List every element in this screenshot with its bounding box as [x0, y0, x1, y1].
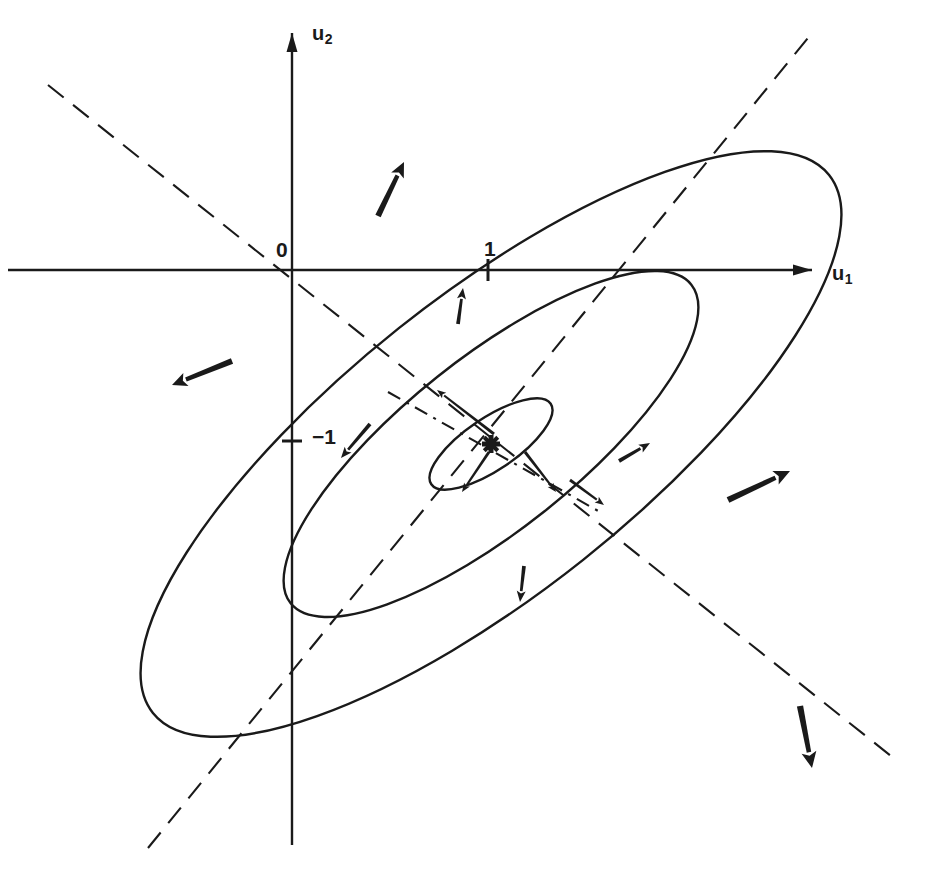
- arrow-middle-top-head: [457, 288, 466, 300]
- origin-label: 0: [276, 238, 288, 262]
- arrow-outer-bottom-head: [802, 751, 817, 768]
- coordinate-axes-group: [8, 33, 812, 845]
- arrow-outer-top-shaft: [375, 175, 399, 218]
- tick-marks-group: [282, 259, 488, 441]
- center-marker-group: [482, 435, 500, 453]
- y-axis-label-subscript: 2: [325, 31, 333, 47]
- x-axis-line-arrowhead: [793, 265, 812, 276]
- tick-label-negative-one: −1: [312, 425, 336, 449]
- major-axis-dashed-line: [48, 85, 896, 760]
- arrow-inner-far-right-shaft: [569, 479, 597, 501]
- arrow-middle-lower-left-shaft: [347, 423, 371, 451]
- arrow-middle-top-shaft: [456, 299, 463, 325]
- guide-lines-group: [48, 33, 896, 848]
- arrow-middle-bottom-shaft: [520, 566, 526, 591]
- arrow-outer-right-shaft: [727, 476, 777, 503]
- arrow-middle-right-shaft: [618, 447, 641, 462]
- y-axis-line-arrowhead: [287, 33, 298, 52]
- figure-canvas: 0 u1 u2 1 −1: [0, 0, 931, 885]
- x-axis-label: u1: [832, 262, 853, 287]
- inner-axis-dashdot-line: [388, 392, 600, 512]
- arrow-middle-bottom-head: [517, 591, 526, 602]
- arrow-outer-bottom-shaft: [797, 705, 811, 752]
- x-axis-label-subscript: 1: [845, 271, 853, 287]
- tick-label-positive-one: 1: [484, 237, 496, 261]
- y-axis-label: u2: [312, 22, 333, 47]
- arrow-outer-left-shaft: [185, 358, 233, 381]
- diagram-svg: [0, 0, 931, 885]
